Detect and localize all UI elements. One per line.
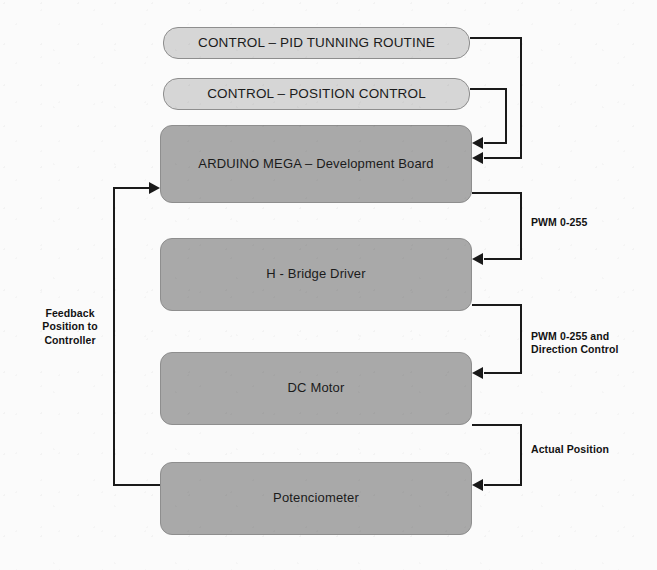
- arrowhead-hbridge-to-motor: [472, 367, 483, 379]
- connector-arduino-to-hbridge-vertical: [520, 192, 522, 260]
- block-arduino-mega: ARDUINO MEGA – Development Board: [160, 125, 472, 203]
- connector-hbridge-to-motor-top: [472, 304, 522, 306]
- block-pid-tunning-routine: CONTROL – PID TUNNING ROUTINE: [163, 27, 470, 59]
- arrowhead-motor-to-potenciometer: [472, 479, 483, 491]
- connector-hbridge-to-motor-bottom: [484, 372, 522, 374]
- block-dc-motor: DC Motor: [160, 352, 472, 425]
- block-dc-motor-label: DC Motor: [288, 381, 345, 396]
- edge-label-actual-position: Actual Position: [531, 443, 609, 456]
- connector-arduino-to-hbridge-top: [472, 192, 522, 194]
- edge-label-pwm-direction: PWM 0-255 and Direction Control: [531, 330, 618, 357]
- arrowhead-arduino-to-hbridge: [472, 253, 483, 265]
- connector-pid-to-arduino-bottom: [484, 157, 522, 159]
- edge-label-pwm: PWM 0-255: [531, 216, 587, 229]
- edge-label-pwm-direction-line1: PWM 0-255 and: [531, 330, 609, 342]
- connector-hbridge-to-motor-vertical: [520, 304, 522, 374]
- connector-pid-to-arduino-vertical: [520, 37, 522, 159]
- block-diagram-canvas: CONTROL – PID TUNNING ROUTINE CONTROL – …: [0, 0, 657, 570]
- block-arduino-mega-label: ARDUINO MEGA – Development Board: [198, 157, 433, 172]
- connector-feedback-top: [113, 187, 151, 189]
- connector-motor-to-potenciometer-top: [472, 424, 522, 426]
- connector-position-to-arduino-vertical: [505, 88, 507, 144]
- arrowhead-position-to-arduino: [472, 137, 483, 149]
- block-h-bridge-driver-label: H - Bridge Driver: [266, 267, 365, 282]
- connector-position-to-arduino-top: [470, 88, 507, 90]
- block-potenciometer-label: Potenciometer: [273, 491, 359, 506]
- edge-label-pwm-direction-line2: Direction Control: [531, 343, 618, 355]
- block-position-control-label: CONTROL – POSITION CONTROL: [207, 86, 426, 102]
- edge-label-feedback-line3: Controller: [44, 334, 95, 346]
- block-pid-tunning-routine-label: CONTROL – PID TUNNING ROUTINE: [198, 35, 435, 51]
- block-potenciometer: Potenciometer: [160, 462, 472, 535]
- edge-label-feedback: Feedback Position to Controller: [33, 307, 107, 347]
- arrowhead-pid-to-arduino: [472, 152, 483, 164]
- block-position-control: CONTROL – POSITION CONTROL: [163, 78, 470, 110]
- block-h-bridge-driver: H - Bridge Driver: [160, 238, 472, 311]
- connector-feedback-bottom: [113, 484, 161, 486]
- connector-feedback-vertical: [113, 187, 115, 486]
- edge-label-feedback-line2: Position to: [42, 320, 97, 332]
- connector-position-to-arduino-bottom: [484, 142, 507, 144]
- connector-arduino-to-hbridge-bottom: [484, 258, 522, 260]
- connector-motor-to-potenciometer-bottom: [484, 484, 522, 486]
- edge-label-feedback-line1: Feedback: [45, 307, 94, 319]
- connector-motor-to-potenciometer-vertical: [520, 424, 522, 486]
- connector-pid-to-arduino-top: [470, 37, 522, 39]
- arrowhead-feedback-to-arduino: [149, 182, 160, 194]
